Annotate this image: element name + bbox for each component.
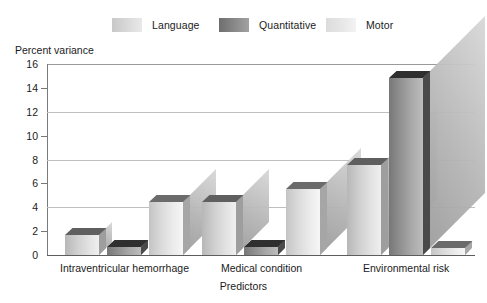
bar-medical-condition-motor[interactable]	[286, 189, 320, 255]
x-axis-title: Predictors	[0, 280, 487, 292]
y-tick-label-10: 10	[26, 130, 38, 142]
legend-label-language: Language	[152, 19, 200, 31]
bar-front-face	[107, 247, 141, 255]
y-tick-label-6: 6	[32, 177, 38, 189]
x-tick-label-medical-condition: Medical condition	[221, 262, 302, 274]
x-tick-label-environmental-risk: Environmental risk	[363, 262, 449, 274]
bar-side-face	[381, 158, 388, 255]
bar-front-face	[65, 235, 99, 255]
bar-front-face	[202, 202, 236, 255]
bar-top-face	[431, 241, 473, 248]
y-tick-mark-14	[41, 88, 47, 89]
bar-front-face	[244, 247, 278, 255]
y-tick-mark-2	[41, 231, 47, 232]
bar-top-face	[65, 228, 107, 235]
y-tick-label-14: 14	[26, 82, 38, 94]
chart-legend: Language Quantitative Motor	[0, 14, 487, 38]
legend-item-language: Language	[112, 14, 200, 36]
legend-label-quantitative: Quantitative	[259, 19, 316, 31]
bar-front-face	[347, 165, 381, 255]
bar-medical-condition-quantitative[interactable]	[244, 247, 278, 255]
quantitative-swatch-icon	[219, 18, 249, 32]
bar-intraventricular-hemorrhage-quantitative[interactable]	[107, 247, 141, 255]
bar-top-face	[244, 240, 286, 247]
chart-plot-area: 0246810121416	[47, 64, 475, 255]
x-tick-label-intraventricular-hemorrhage: Intraventricular hemorrhage	[60, 262, 189, 274]
y-tick-mark-10	[41, 136, 47, 137]
legend-label-motor: Motor	[366, 19, 393, 31]
bar-environmental-risk-language[interactable]	[347, 165, 381, 255]
y-tick-mark-6	[41, 183, 47, 184]
y-axis-title: Percent variance	[15, 44, 94, 56]
legend-item-motor: Motor	[326, 14, 393, 36]
x-axis-line	[47, 255, 475, 256]
language-swatch-icon	[112, 18, 142, 32]
bar-side-face	[423, 71, 430, 255]
y-tick-label-2: 2	[32, 225, 38, 237]
bar-side-face	[320, 182, 327, 255]
y-tick-label-8: 8	[32, 154, 38, 166]
bar-front-face	[286, 189, 320, 255]
plot-top-border	[47, 64, 475, 65]
bar-top-face	[107, 240, 149, 247]
motor-swatch-icon	[326, 18, 356, 32]
bar-intraventricular-hemorrhage-language[interactable]	[65, 235, 99, 255]
bar-medical-condition-language[interactable]	[202, 202, 236, 255]
y-tick-label-12: 12	[26, 106, 38, 118]
bar-front-face	[149, 202, 183, 255]
y-tick-label-16: 16	[26, 58, 38, 70]
legend-item-quantitative: Quantitative	[219, 14, 316, 36]
y-tick-label-4: 4	[32, 201, 38, 213]
bar-environmental-risk-quantitative[interactable]	[389, 78, 423, 255]
bar-side-face	[236, 195, 243, 255]
bar-front-face	[431, 248, 465, 255]
bar-side-face	[183, 195, 190, 255]
y-tick-label-0: 0	[32, 249, 38, 261]
bar-front-face	[389, 78, 423, 255]
bar-environmental-risk-motor[interactable]	[431, 248, 465, 255]
bar-shadow-environmental-risk-quantitative	[423, 16, 485, 255]
bar-intraventricular-hemorrhage-motor[interactable]	[149, 202, 183, 255]
